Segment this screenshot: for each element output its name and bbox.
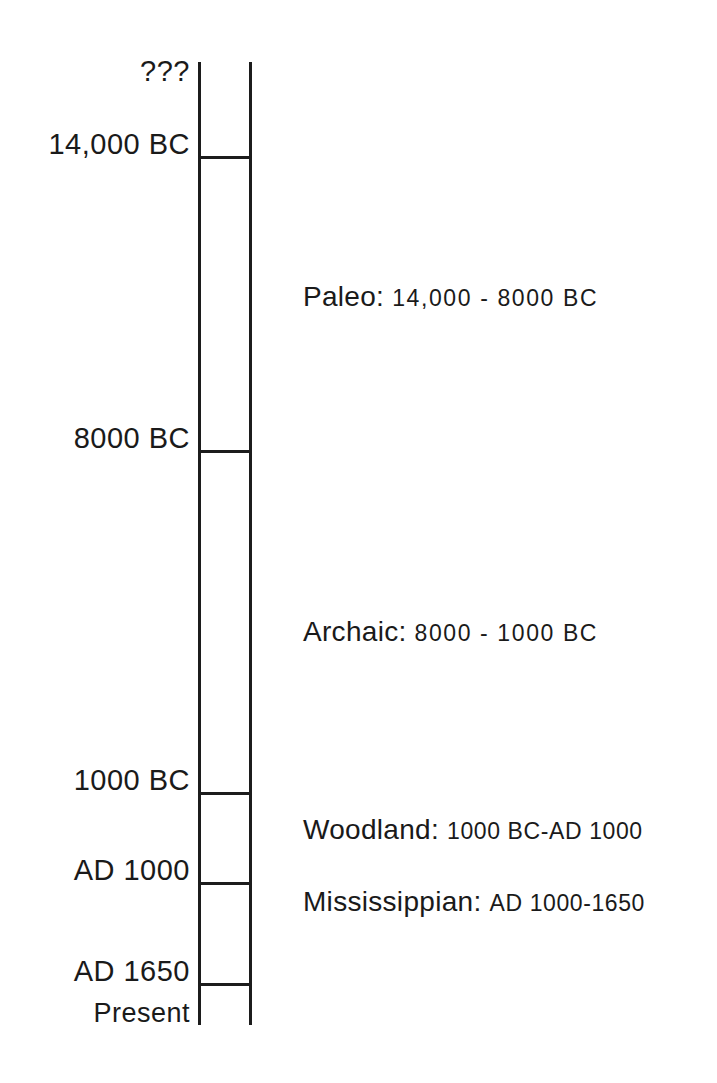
timeline-rail-right — [249, 62, 252, 1025]
axis-bottom-marker: Present — [93, 1000, 190, 1027]
timeline-rail-left — [198, 62, 201, 1025]
period-label-mississippian: Mississippian:AD 1000-1650 — [303, 888, 645, 916]
period-label-archaic: Archaic:8000 - 1000 BC — [303, 618, 598, 646]
period-label-woodland: Woodland:1000 BC-AD 1000 — [303, 816, 643, 844]
axis-label-ad-1000: AD 1000 — [74, 856, 190, 885]
axis-label-8000-bc: 8000 BC — [74, 424, 190, 453]
period-name-mississippian: Mississippian: — [303, 886, 481, 917]
period-range-woodland: 1000 BC-AD 1000 — [447, 818, 643, 844]
tick-mark-14000-bc — [198, 156, 252, 159]
period-range-mississippian: AD 1000-1650 — [489, 890, 645, 916]
axis-label-ad-1650: AD 1650 — [74, 957, 190, 986]
period-range-paleo: 14,000 - 8000 BC — [392, 285, 598, 311]
tick-mark-1000-bc — [198, 792, 252, 795]
period-name-paleo: Paleo: — [303, 281, 384, 312]
timeline-diagram: ??? 14,000 BC 8000 BC 1000 BC AD 1000 AD… — [0, 0, 717, 1083]
period-name-woodland: Woodland: — [303, 814, 439, 845]
axis-label-14000-bc: 14,000 BC — [48, 130, 190, 159]
tick-mark-ad-1650 — [198, 983, 252, 986]
tick-mark-8000-bc — [198, 450, 252, 453]
axis-label-1000-bc: 1000 BC — [74, 766, 190, 795]
period-range-archaic: 8000 - 1000 BC — [415, 620, 599, 646]
period-name-archaic: Archaic: — [303, 616, 407, 647]
axis-top-marker: ??? — [140, 57, 190, 86]
period-label-paleo: Paleo:14,000 - 8000 BC — [303, 283, 598, 311]
tick-mark-ad-1000 — [198, 882, 252, 885]
